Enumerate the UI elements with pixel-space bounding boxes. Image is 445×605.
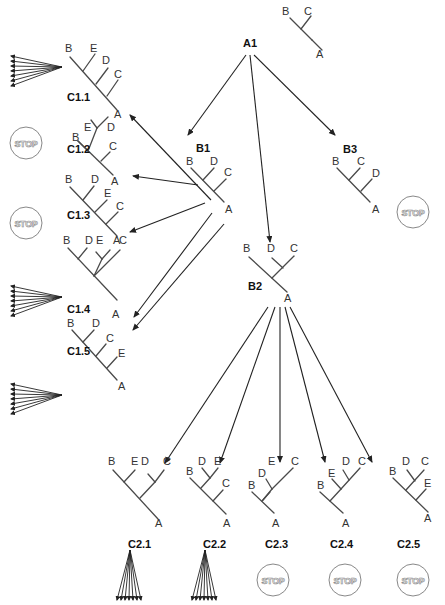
tree-name: C2.4 (330, 538, 354, 550)
stop-label: STOP (14, 219, 37, 229)
tree-b1: BDCAB1 (186, 142, 233, 215)
tree-branch (96, 68, 108, 84)
taxon-label: D (258, 467, 266, 479)
taxon-label: E (328, 467, 335, 479)
taxon-label: D (102, 54, 110, 66)
tree-branch (272, 256, 294, 278)
tree-search-diagram: BCAA1BEDCAC1.1BEDCAC1.2BDECAC1.3BDECAC1.… (0, 0, 445, 605)
tree-branch (263, 489, 272, 500)
branch-fan-arrows (11, 56, 216, 600)
tree-branch (107, 357, 117, 368)
taxon-label: A (272, 517, 280, 529)
taxon-label: B (389, 465, 396, 477)
tree-branch (393, 478, 428, 512)
taxon-label: D (85, 234, 93, 246)
tree-c2-2: BDECAC2.2 (186, 455, 231, 550)
taxon-label: D (107, 121, 115, 133)
tree-branch (320, 492, 343, 513)
search-arrow (133, 224, 224, 330)
tree-branch (91, 120, 97, 128)
taxon-label: E (96, 234, 103, 246)
taxon-label: B (243, 242, 250, 254)
tree-name: A1 (243, 37, 257, 49)
tree-branch (106, 212, 118, 224)
stop-label: STOP (401, 576, 424, 586)
taxon-label: B (72, 131, 79, 143)
tree-branch (148, 474, 155, 482)
taxon-label: E (118, 347, 125, 359)
search-arrow (220, 307, 275, 463)
fan-arrows (11, 384, 62, 414)
tree-branch (83, 54, 95, 71)
taxon-label: D (372, 167, 380, 179)
tree-name: B1 (196, 142, 210, 154)
tree-a0: BCA (282, 5, 324, 60)
tree-branch (301, 16, 311, 29)
tree-name: C2.3 (265, 538, 288, 550)
taxon-label: C (222, 477, 230, 489)
taxon-label: A (118, 380, 126, 392)
tree-branch (343, 470, 349, 480)
search-arrow (290, 307, 372, 462)
tree-c2-4: BEDCAC2.4 (317, 455, 366, 550)
tree-name: C1.1 (67, 91, 90, 103)
tree-branch (349, 168, 360, 180)
fan-arrow (117, 550, 130, 600)
tree-branch (337, 168, 370, 202)
fan-arrow (11, 395, 62, 414)
taxon-label: B (65, 42, 72, 54)
stop-icon: STOP (10, 207, 42, 239)
taxon-label: C (109, 140, 117, 152)
fan-arrows (192, 550, 216, 600)
stop-icon: STOP (10, 127, 42, 159)
taxon-label: D (141, 455, 149, 467)
tree-branch (107, 80, 118, 96)
tree-c1-4: BDECAC1.4 (63, 234, 127, 320)
taxon-label: B (282, 5, 289, 17)
stop-label: STOP (14, 139, 37, 149)
tree-b2: BDCAB2 (243, 242, 298, 304)
tree-branch (83, 186, 94, 200)
taxon-label: C (304, 5, 312, 17)
fan-arrows (11, 56, 62, 86)
tree-branch (214, 179, 226, 191)
tree-branch (252, 492, 274, 513)
search-arrow (285, 307, 325, 462)
tree-name: C1.2 (67, 143, 90, 155)
taxon-label: D (267, 242, 275, 254)
taxon-label: C (114, 68, 122, 80)
tree-branch (213, 490, 223, 501)
taxon-label: C (421, 455, 429, 467)
taxon-label: E (104, 187, 111, 199)
trees: BCAA1BEDCAC1.1BEDCAC1.2BDECAC1.3BDECAC1.… (63, 5, 432, 550)
tree-branch (210, 468, 218, 478)
stop-label: STOP (261, 576, 284, 586)
search-arrow (250, 55, 270, 242)
search-arrow (133, 176, 198, 185)
taxon-label: D (402, 455, 410, 467)
taxon-label: B (186, 155, 193, 167)
search-arrow (130, 115, 211, 200)
tree-branch (94, 259, 102, 276)
taxon-label: B (65, 173, 72, 185)
tree-branch (124, 470, 135, 482)
taxon-label: E (424, 477, 431, 489)
taxon-label: A (342, 517, 350, 529)
tree-name: C1.4 (67, 303, 91, 315)
tree-branch (202, 468, 210, 478)
taxon-label: E (84, 121, 91, 133)
tree-branch (83, 330, 94, 342)
fan-arrow (192, 550, 205, 600)
tree-branch (332, 479, 341, 489)
taxon-label: E (131, 455, 138, 467)
taxon-label: B (248, 479, 255, 491)
tree-branch (201, 478, 210, 488)
stop-icon: STOP (397, 196, 429, 228)
fan-arrows (117, 550, 141, 600)
taxon-label: C (291, 455, 299, 467)
fan-arrow (11, 67, 62, 76)
tree-branch (78, 248, 87, 259)
tree-name: B2 (248, 280, 262, 292)
tree-branch (140, 482, 155, 498)
taxon-label: B (67, 317, 74, 329)
